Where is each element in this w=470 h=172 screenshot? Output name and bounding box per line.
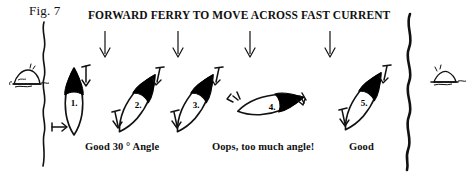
current-arrow-2 bbox=[173, 31, 183, 57]
current-arrow-1 bbox=[100, 31, 110, 57]
figure-forward-ferry: 1. 2. bbox=[0, 0, 470, 172]
current-arrow-3 bbox=[245, 31, 255, 57]
kayak-1-paddle-icon bbox=[82, 65, 90, 86]
kayak-1-number: 1. bbox=[71, 98, 78, 108]
current-arrow-4 bbox=[325, 31, 335, 57]
rock-right-icon bbox=[431, 65, 466, 85]
kayak-3-number: 3. bbox=[193, 100, 200, 110]
caption-too-much-angle: Oops, too much angle! bbox=[212, 142, 314, 153]
figure-label: Fig. 7 bbox=[29, 4, 61, 17]
kayak-1: 1. bbox=[65, 68, 84, 135]
kayak-5-number: 5. bbox=[361, 98, 368, 108]
figure-headline: FORWARD FERRY TO MOVE ACROSS FAST CURREN… bbox=[88, 10, 390, 22]
kayak-2-number: 2. bbox=[135, 100, 142, 110]
caption-good: Good bbox=[349, 142, 374, 153]
ferry-offset-arrow-icon bbox=[52, 123, 67, 131]
kayak-4-number: 4. bbox=[269, 102, 276, 112]
left-bank-line bbox=[43, 22, 45, 166]
right-bank-line bbox=[407, 14, 411, 170]
kayak-4-paddle-stern-icon bbox=[227, 92, 240, 102]
kayak-4: 4. bbox=[236, 88, 305, 120]
caption-good-30-angle: Good 30 ° Angle bbox=[85, 142, 159, 153]
